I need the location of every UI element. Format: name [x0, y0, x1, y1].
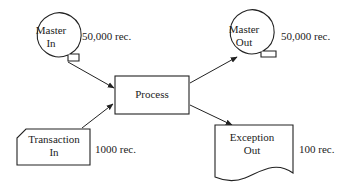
- node-process: Process: [115, 76, 189, 114]
- transaction-in-label-1: Transaction: [28, 133, 80, 145]
- transaction-in-label-2: In: [49, 146, 59, 158]
- exception-out-annotation: 100 rec.: [299, 143, 335, 155]
- process-label: Process: [135, 88, 169, 100]
- master-out-label-2: Out: [236, 36, 253, 48]
- edge-process-to-exception-out: [190, 105, 232, 125]
- magnetic-tape-icon: [37, 13, 81, 61]
- flowchart-canvas: Master In 50,000 rec. Process Master Out…: [0, 0, 349, 189]
- exception-out-label-2: Out: [244, 144, 261, 156]
- master-in-label-1: Master: [36, 24, 67, 36]
- node-master-out: Master Out 50,000 rec.: [229, 10, 331, 57]
- edge-master-in-to-process: [68, 62, 114, 88]
- edge-process-to-master-out: [190, 57, 237, 83]
- node-master-in: Master In 50,000 rec.: [36, 13, 132, 61]
- master-out-label-1: Master: [229, 23, 260, 35]
- master-out-annotation: 50,000 rec.: [281, 30, 330, 42]
- node-transaction-in: Transaction In 1000 rec.: [17, 129, 136, 165]
- exception-out-label-1: Exception: [230, 131, 275, 143]
- node-exception-out: Exception Out 100 rec.: [215, 125, 335, 181]
- master-in-annotation: 50,000 rec.: [82, 30, 131, 42]
- transaction-in-annotation: 1000 rec.: [95, 143, 136, 155]
- master-in-label-2: In: [46, 37, 56, 49]
- edge-transaction-in-to-process: [82, 104, 113, 128]
